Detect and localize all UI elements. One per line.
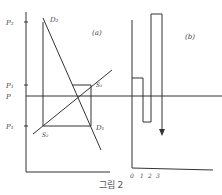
tick-0: 0 (130, 172, 134, 179)
panel-b-label: (b) (185, 33, 195, 41)
figure-canvas: P₂ P₁ P P₁ D₂ D₁ S₁ S₂ (a) (b) 0 1 2 3 그… (0, 0, 222, 195)
label-p1-upper: P₁ (5, 82, 14, 90)
label-p: P (5, 93, 11, 101)
panel-b-x-axis (132, 168, 213, 170)
label-s2: S₂ (42, 131, 49, 138)
figure-caption: 그림 2 (99, 179, 124, 190)
label-p1-lower: P₁ (5, 123, 14, 131)
panel-a-label: (a) (92, 29, 102, 37)
price-path (132, 14, 162, 130)
tick-3: 3 (156, 172, 160, 179)
label-p2: P₂ (5, 19, 14, 27)
arrow-down-icon (159, 129, 165, 136)
label-s1: S₁ (96, 81, 103, 88)
tick-2: 2 (147, 172, 152, 179)
demand-curve-d2 (43, 18, 101, 150)
label-d2: D₂ (49, 16, 59, 24)
label-d1: D₁ (95, 124, 105, 132)
tick-1: 1 (140, 172, 144, 179)
